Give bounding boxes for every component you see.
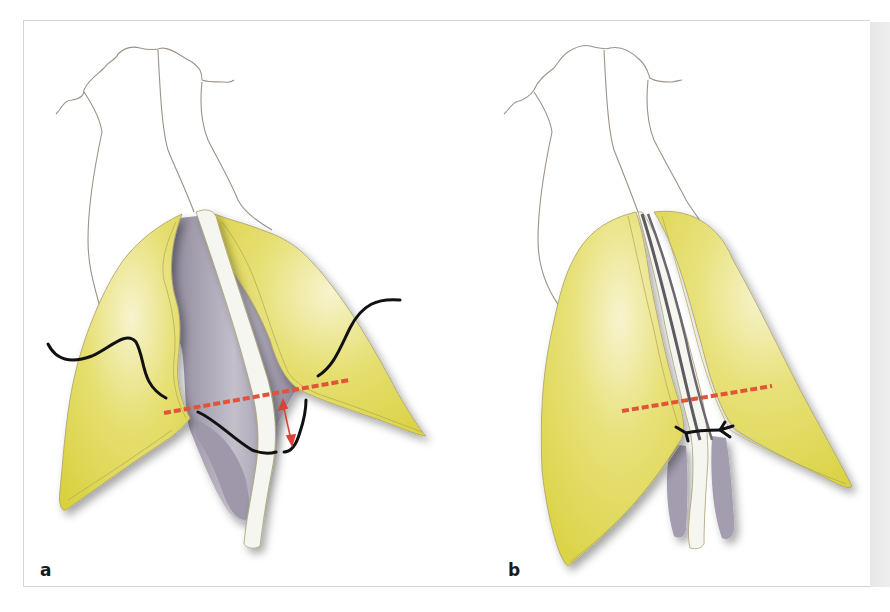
panel-a-illustration (0, 0, 450, 612)
panel-label-b: b (508, 560, 520, 580)
panel-a: a (0, 0, 450, 612)
panel-b-illustration (450, 0, 870, 612)
page-edge-strip (870, 22, 890, 587)
panel-label-a: a (40, 560, 51, 580)
left-lateral-crus (59, 214, 190, 510)
distance-arrow-icon (279, 400, 295, 445)
panel-b: b (450, 0, 870, 612)
